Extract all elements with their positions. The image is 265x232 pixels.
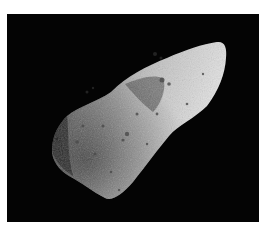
asteroid-photo-frame [7,14,259,222]
asteroid-photo [7,14,259,222]
